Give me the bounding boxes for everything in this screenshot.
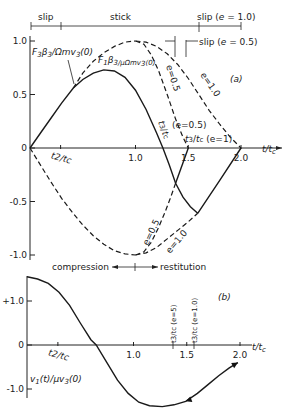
panel-a: 1.00.50-0.5-1.0 t2/tc1.01.52.0 slip stic…	[9, 12, 282, 272]
t3-e10-marker: t3/tc (e=1.0)	[191, 298, 199, 343]
label-upper-e10: e=1.0	[198, 70, 222, 98]
y-tick-label: 0	[18, 340, 24, 350]
arrow-right-icon	[152, 265, 158, 269]
x-tick-label: 2.0	[233, 350, 248, 360]
panel-b-ylabel: v1(t)/μv3(0)	[30, 374, 82, 386]
series-line	[30, 148, 136, 255]
panel-a-xlabel: t/tc	[262, 144, 276, 156]
y-tick-label: +1.0	[2, 296, 24, 306]
series-line	[136, 41, 242, 148]
y-tick-label: -0.5	[9, 197, 27, 207]
t3-e1-label: t3/tc (e=1)	[185, 134, 232, 144]
panel-b-label: (b)	[218, 292, 231, 302]
label-upper-e05: e=0.5	[164, 64, 182, 93]
dashed-curve-label: F1β3/μΩmv3(0)	[98, 55, 156, 68]
t3-e5-marker: t3/tc (e=5)	[170, 304, 178, 343]
panel-b-xlabel: t/tc	[252, 342, 266, 354]
x-tick-label: 1.0	[128, 153, 143, 163]
x-tick-label: t2/tc	[50, 151, 73, 166]
figure: 1.00.50-0.5-1.0 t2/tc1.01.52.0 slip stic…	[0, 0, 293, 416]
restitution-label: restitution	[160, 262, 206, 272]
y-tick-label: 1.0	[13, 36, 28, 46]
label-lower-e05: e=0.5	[141, 218, 162, 247]
t3-e05-sub: (e=0.5)	[172, 120, 206, 130]
x-tick-label: 1.5	[180, 350, 194, 360]
arrowhead-icon	[231, 360, 239, 368]
panel-b: +1.00-1.0 t2/tc1.01.52.0 (b) t/tc v1(t)/…	[2, 276, 266, 407]
solid-curve-label: F3β3/Ωmv3(0)	[32, 47, 93, 59]
panel-a-label: (a)	[230, 74, 243, 84]
compression-label: compression	[52, 262, 109, 272]
x-tick-label: 1.0	[126, 350, 141, 360]
phase-label-stick: stick	[110, 12, 132, 22]
y-tick-label: 0	[21, 143, 27, 153]
y-tick-label: -1.0	[9, 250, 27, 260]
phase-label-slip: slip	[38, 12, 54, 22]
series-line	[198, 148, 241, 213]
panel-a-x-arrow-icon	[276, 146, 282, 150]
solid-label-pointer	[68, 60, 74, 84]
series-line	[27, 277, 238, 407]
phase-label-slip-e05: slip (e = 0.5)	[199, 37, 257, 47]
y-tick-label: -1.0	[6, 384, 24, 394]
x-tick-label: t2/tc	[47, 348, 70, 363]
phase-label-slip-e1: slip (e = 1.0)	[197, 12, 255, 22]
arrow-left-icon	[112, 265, 118, 269]
y-tick-label: 0.5	[13, 90, 27, 100]
